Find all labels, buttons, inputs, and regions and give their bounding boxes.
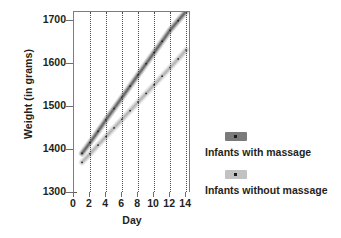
data-point-marker: [97, 144, 99, 146]
data-point-marker: [145, 93, 147, 95]
x-axis-title: Day: [73, 214, 191, 226]
data-point-marker: [161, 41, 163, 43]
y-tick-1400: [66, 149, 73, 150]
chart-legend: Infants with massage Infants without mas…: [205, 132, 337, 208]
gridline-day-10: [154, 12, 155, 192]
data-point-marker: [129, 85, 131, 87]
legend-swatch-with-massage: [225, 132, 247, 141]
x-tick-label-12: 12: [161, 197, 177, 209]
x-tick-label-4: 4: [97, 197, 113, 209]
x-tick-label-8: 8: [129, 197, 145, 209]
y-tick-1300: [66, 192, 73, 193]
gridline-day-4: [106, 12, 107, 192]
legend-label-with-massage: Infants with massage: [205, 146, 337, 158]
data-point-marker: [161, 75, 163, 77]
y-axis-labels: 13001400150016001700: [14, 0, 66, 238]
y-tick-1600: [66, 63, 73, 64]
y-tick-1700: [66, 20, 73, 21]
chart-figure: Weight (in grams) Day 130014001500160017…: [0, 0, 341, 238]
y-tick-label-1400: 1400: [20, 142, 66, 154]
gridline-day-12: [170, 12, 171, 192]
legend-item-without-massage: Infants without massage: [205, 170, 337, 196]
gridline-day-6: [122, 12, 123, 192]
series-canvas: [74, 12, 190, 192]
y-tick-label-1600: 1600: [20, 56, 66, 68]
data-point-marker: [145, 63, 147, 65]
y-tick-label-1300: 1300: [20, 185, 66, 197]
data-point-marker: [81, 162, 83, 164]
x-tick-label-14: 14: [177, 197, 193, 209]
x-tick-label-0: 0: [65, 197, 81, 209]
data-point-marker: [177, 58, 179, 60]
y-tick-label-1500: 1500: [20, 99, 66, 111]
plot-area: [73, 11, 190, 192]
gridline-day-14: [186, 12, 187, 192]
x-tick-label-2: 2: [81, 197, 97, 209]
legend-swatch-without-massage: [225, 170, 247, 179]
gridline-day-2: [90, 12, 91, 192]
data-point-marker: [113, 127, 115, 128]
x-tick-label-10: 10: [145, 197, 161, 209]
legend-label-without-massage: Infants without massage: [205, 184, 337, 196]
data-point-marker: [81, 153, 83, 155]
data-point-marker: [129, 110, 131, 112]
data-point-marker: [97, 131, 99, 133]
data-point-marker: [113, 108, 115, 110]
legend-item-with-massage: Infants with massage: [205, 132, 337, 158]
y-tick-label-1700: 1700: [20, 13, 66, 25]
x-tick-label-6: 6: [113, 197, 129, 209]
y-tick-1500: [66, 106, 73, 107]
gridline-day-8: [138, 12, 139, 192]
data-point-marker: [177, 20, 179, 22]
